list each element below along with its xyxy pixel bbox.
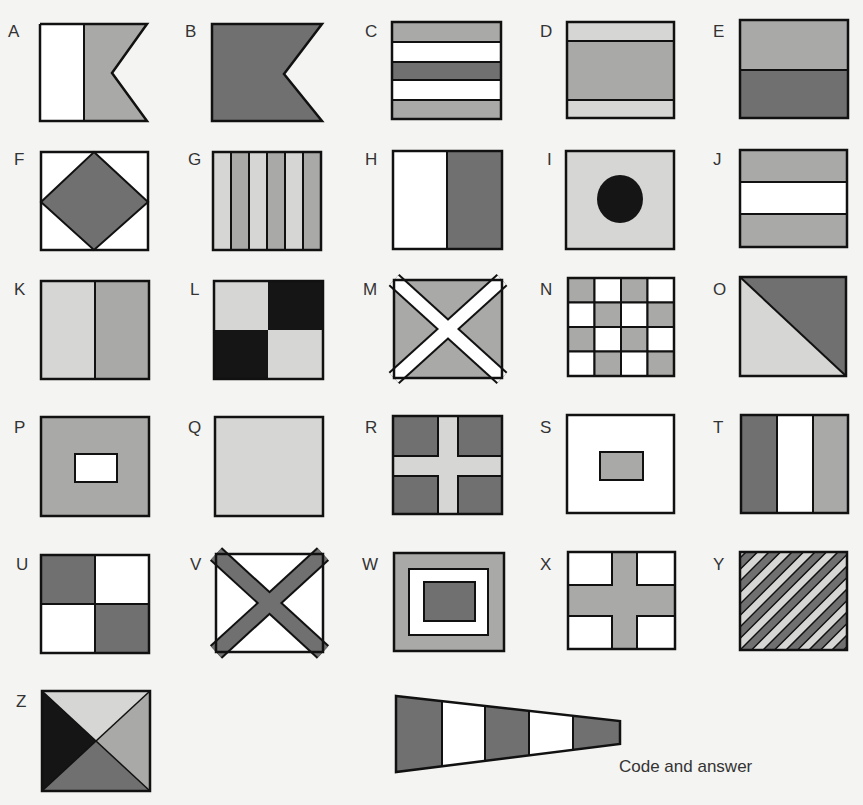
flag-r: [393, 416, 502, 514]
flag-a: [40, 24, 147, 121]
signal-flags-grid: [0, 0, 863, 805]
flag-g: [213, 152, 321, 250]
flag-l: [214, 281, 323, 379]
flag-m: [394, 280, 502, 378]
flag-q: [215, 417, 323, 516]
flag-n: [568, 278, 674, 376]
flag-k: [41, 281, 149, 379]
flag-p: [41, 417, 149, 516]
flag-b: [212, 24, 322, 121]
pennant-caption: Code and answer: [619, 757, 752, 777]
flag-z: [42, 691, 150, 791]
flag-v: [216, 554, 323, 652]
flag-c: [392, 22, 501, 119]
flag-s: [567, 415, 674, 513]
flag-d: [567, 22, 674, 118]
flag-u: [41, 555, 149, 653]
flag-h: [393, 151, 502, 249]
flag-x: [568, 552, 675, 649]
code-and-answer-pennant: [396, 690, 620, 780]
flag-o: [740, 277, 846, 376]
flag-i: [566, 151, 674, 249]
flag-f: [41, 152, 148, 250]
flag-w: [394, 553, 504, 651]
flag-t: [741, 415, 848, 513]
flag-j: [740, 150, 847, 247]
flag-e: [740, 20, 848, 118]
